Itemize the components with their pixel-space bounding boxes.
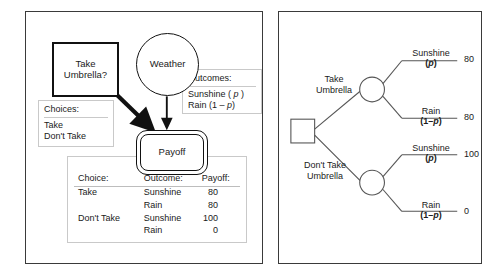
cell-choice — [74, 199, 144, 212]
cell-outcome: Rain — [144, 225, 202, 238]
choices-header: Choices: — [44, 104, 108, 118]
cell-choice: Take — [74, 186, 144, 199]
cell-outcome: Rain — [144, 199, 202, 212]
payoff-value-rain-upper: 80 — [464, 112, 474, 122]
branch-label-sunshine-upper: Sunshine (p) — [403, 48, 459, 68]
tree-label-take-umbrella: Take Umbrella — [299, 74, 369, 96]
outcomes-item-rain: Rain (1 – p) — [188, 100, 256, 112]
branch-probability: (1–p) — [403, 210, 459, 220]
branch-label-rain-upper: Rain (1–p) — [403, 106, 459, 126]
cell-choice — [74, 225, 144, 238]
branch-label-rain-lower: Rain (1–p) — [403, 200, 459, 220]
header-payoff: Payoff: — [202, 173, 240, 186]
node-decision-take-umbrella: Take Umbrella? — [52, 42, 119, 97]
branch-upper-rain — [383, 96, 402, 118]
branch-label-sunshine-lower: Sunshine (p) — [403, 143, 459, 163]
payoff-value-rain-lower: 0 — [464, 206, 469, 216]
branch-probability: (1–p) — [403, 116, 459, 126]
branch-outcome-name: Rain — [403, 106, 459, 116]
decision-tree-panel: Take Umbrella Don't Take Umbrella Sunshi… — [278, 11, 482, 264]
branch-probability: (p) — [403, 58, 459, 68]
choices-annotation-box: Choices: Take Don't Take — [38, 100, 114, 147]
node-chance-weather: Weather — [136, 33, 199, 96]
cell-payoff: 0 — [202, 225, 240, 238]
cell-payoff: 80 — [202, 199, 240, 212]
arrow-decision-to-payoff — [116, 94, 147, 124]
payoff-node-label: Payoff — [159, 147, 186, 158]
chance-node-label: Weather — [150, 59, 186, 70]
table-row: Rain 80 — [74, 199, 240, 212]
branch-lower-rain — [383, 189, 402, 211]
header-choice: Choice: — [74, 173, 144, 186]
tree-label-dont-take-umbrella: Don't Take Umbrella — [283, 160, 367, 182]
tree-root-decision-square — [291, 119, 315, 143]
branch-upper-sunshine — [383, 61, 402, 84]
payoff-table: Choice: Outcome: Payoff: Take Sunshine 8… — [74, 173, 240, 237]
cell-outcome: Sunshine — [144, 212, 202, 225]
cell-outcome: Sunshine — [144, 186, 202, 199]
choices-item-take: Take — [44, 120, 108, 132]
influence-diagram-panel: Take Umbrella? Weather Payoff Choices: T… — [25, 11, 263, 264]
table-row: Take Sunshine 80 — [74, 186, 240, 199]
branch-outcome-name: Rain — [403, 200, 459, 210]
payoff-value-sunshine-upper: 80 — [464, 54, 474, 64]
node-payoff: Payoff — [136, 130, 208, 175]
outcomes-item-sunshine: Sunshine ( p ) — [188, 89, 256, 101]
table-row: Don't Take Sunshine 100 — [74, 212, 240, 225]
table-row: Rain 0 — [74, 225, 240, 238]
cell-payoff: 80 — [202, 186, 240, 199]
branch-probability: (p) — [403, 153, 459, 163]
choices-item-dont-take: Don't Take — [44, 131, 108, 143]
outcomes-header: Outcomes: — [188, 73, 256, 87]
decision-node-label: Take Umbrella? — [64, 59, 107, 81]
cell-choice: Don't Take — [74, 212, 144, 225]
branch-outcome-name: Sunshine — [403, 48, 459, 58]
branch-outcome-name: Sunshine — [403, 143, 459, 153]
branch-lower-sunshine — [383, 155, 402, 177]
cell-payoff: 100 — [202, 212, 240, 225]
payoff-value-sunshine-lower: 100 — [464, 149, 479, 159]
